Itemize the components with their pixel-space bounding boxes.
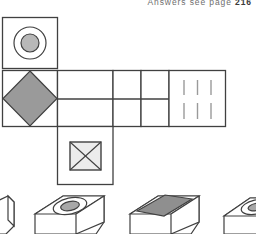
answer-options-row xyxy=(0,195,256,234)
option-a-side-icon xyxy=(8,196,14,226)
answer-option-c[interactable] xyxy=(130,195,199,234)
answer-option-d[interactable] xyxy=(224,197,256,234)
concentric-circle-inner-icon xyxy=(21,34,39,52)
cube-net xyxy=(3,18,226,185)
net-cell-crossed-square[interactable] xyxy=(58,127,114,185)
net-cell-stripes[interactable] xyxy=(169,71,226,127)
net-cell-circles[interactable] xyxy=(3,18,58,69)
puzzle-canvas xyxy=(0,0,256,234)
page-root: Answers see page 216 xyxy=(0,0,256,234)
net-cell-diamond[interactable] xyxy=(3,71,58,127)
answer-option-a[interactable] xyxy=(0,196,14,234)
answer-option-b[interactable] xyxy=(35,195,104,234)
